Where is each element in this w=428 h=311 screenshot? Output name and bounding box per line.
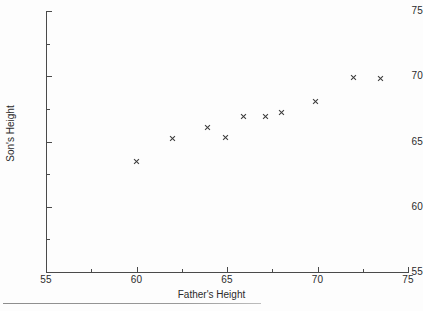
data-point-marker [169, 135, 176, 142]
x-axis-tick-label: 55 [26, 275, 66, 285]
x-axis-tick-label: 70 [298, 275, 338, 285]
x-axis-tick-label: 75 [388, 275, 428, 285]
data-point-marker [262, 113, 269, 120]
x-axis-title: Father's Height [0, 289, 423, 300]
y-axis-title: Son's Height [5, 94, 16, 174]
data-point-marker [278, 109, 285, 116]
data-point-marker [240, 113, 247, 120]
data-point-marker [350, 74, 357, 81]
plot-area [46, 11, 408, 272]
data-point-marker [377, 75, 384, 82]
x-axis-tick-label: 65 [207, 275, 247, 285]
footer-divider [3, 303, 261, 304]
data-point-marker [222, 134, 229, 141]
data-point-marker [133, 158, 140, 165]
data-point-marker [312, 98, 319, 105]
data-point-marker [204, 124, 211, 131]
x-axis-tick-label: 60 [117, 275, 157, 285]
